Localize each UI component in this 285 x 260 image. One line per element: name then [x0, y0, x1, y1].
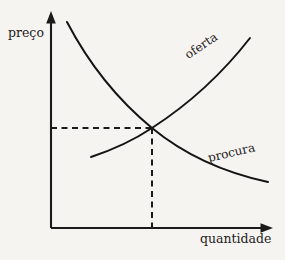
y-axis-label: preço: [8, 27, 44, 40]
x-axis-label: quantidade: [200, 233, 271, 246]
equilibrium-guides: [51, 128, 152, 228]
y-axis-arrowhead: [46, 11, 56, 24]
supply-curve: [91, 38, 250, 157]
supply-demand-figure: preço quantidade oferta procura: [0, 0, 285, 260]
